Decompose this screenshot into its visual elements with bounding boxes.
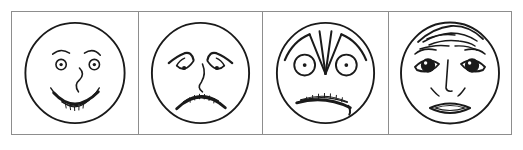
fearful-face-drawing <box>389 12 511 134</box>
panel-angry: Angry face <box>263 12 389 134</box>
panel-sad: Sad face <box>139 12 263 134</box>
happy-face-drawing <box>12 12 138 134</box>
sad-face-drawing <box>139 12 262 134</box>
emotion-faces-figure: Happy face <box>11 11 512 135</box>
panel-fearful: Fearful face <box>389 12 511 134</box>
angry-face-drawing <box>263 12 388 134</box>
panel-happy: Happy face <box>12 12 139 134</box>
